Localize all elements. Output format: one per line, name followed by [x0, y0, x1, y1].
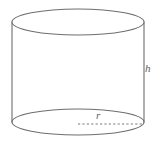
cylinder-top-ellipse [12, 9, 144, 35]
cylinder-body-fill [12, 22, 144, 135]
height-label: h [145, 63, 151, 74]
cylinder-drawing [0, 0, 160, 143]
cylinder-figure: h r [0, 0, 160, 143]
radius-label: r [96, 110, 100, 121]
